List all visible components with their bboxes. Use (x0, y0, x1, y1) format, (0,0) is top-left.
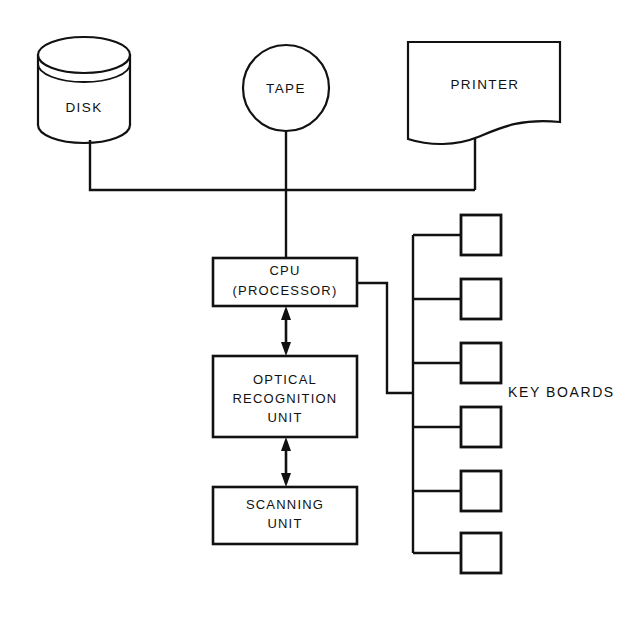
peripheral-bus (90, 131, 475, 258)
diagram-canvas: DISK TAPE PRINTER CPU (PROCESSOR) (0, 0, 623, 619)
keyboard-group: KEY BOARDS (413, 215, 615, 573)
keyboard-box-6 (461, 533, 501, 573)
oru-scanning-arrow-head-down (281, 473, 291, 487)
printer-paper-shape (408, 42, 560, 144)
cpu-oru-arrow-head-down (281, 342, 291, 356)
node-disk: DISK (38, 37, 130, 143)
keyboards-label: KEY BOARDS (508, 384, 615, 400)
node-printer: PRINTER (408, 42, 560, 144)
scanning-unit-label-line2: UNIT (267, 516, 302, 531)
bus-horizontal (90, 140, 475, 190)
disk-label: DISK (65, 100, 102, 115)
node-scanning-unit: SCANNING UNIT (213, 487, 357, 544)
node-tape: TAPE (243, 45, 329, 131)
keyboard-box-2 (461, 279, 501, 319)
keyboard-box-1 (461, 215, 501, 255)
cpu-keyboard-route (357, 283, 413, 393)
disk-cylinder-top (38, 37, 130, 73)
scanning-unit-label-line1: SCANNING (246, 497, 324, 512)
printer-label: PRINTER (450, 77, 519, 92)
connector-cpu-to-oru (281, 306, 291, 356)
node-optical-recognition-unit: OPTICAL RECOGNITION UNIT (213, 356, 357, 437)
cpu-oru-arrow-head-up (281, 306, 291, 320)
oru-scanning-arrow-head-up (281, 437, 291, 451)
keyboard-box-3 (461, 343, 501, 383)
connector-oru-to-scanning (281, 437, 291, 487)
node-cpu: CPU (PROCESSOR) (213, 258, 357, 306)
oru-label-line2: RECOGNITION (233, 391, 338, 406)
oru-label-line3: UNIT (267, 410, 302, 425)
cpu-label-line1: CPU (269, 263, 300, 278)
cpu-label-line2: (PROCESSOR) (233, 283, 338, 298)
system-block-diagram: DISK TAPE PRINTER CPU (PROCESSOR) (0, 0, 623, 619)
keyboard-box-4 (461, 407, 501, 447)
keyboard-box-5 (461, 471, 501, 511)
tape-label: TAPE (266, 81, 306, 96)
connector-cpu-to-keyboard-bus (357, 283, 413, 393)
oru-label-line1: OPTICAL (253, 372, 317, 387)
